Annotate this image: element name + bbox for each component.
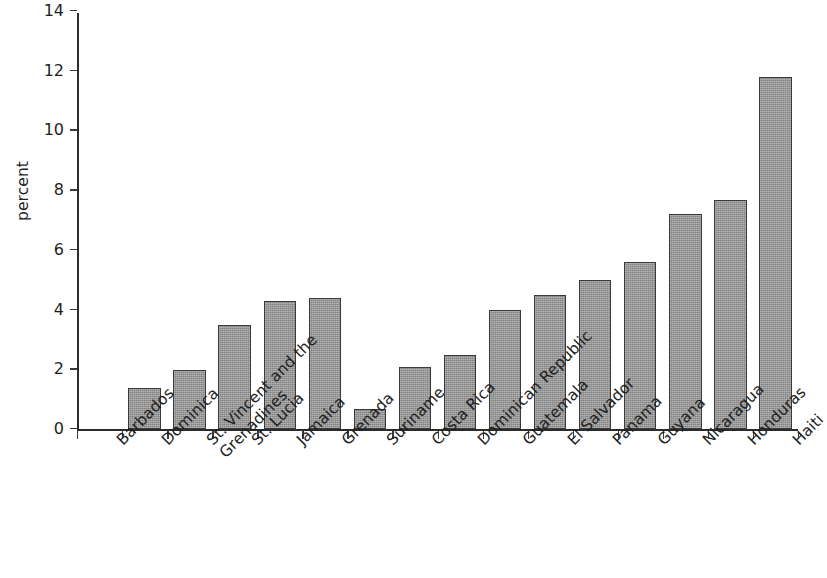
y-tick: 6 [70,249,77,250]
y-tick-label: 8 [54,180,64,199]
y-tick: 12 [70,70,77,71]
y-tick: 0 [70,428,77,429]
y-tick: 2 [70,368,77,369]
y-tick: 14 [70,10,77,11]
plot-area: 02468101214 [77,13,798,431]
y-tick-label: 6 [54,240,64,259]
y-axis-title: percent [14,146,32,236]
x-axis-labels: BarbadosDominicaSt. Vincent and theGrena… [77,436,798,578]
y-tick-label: 12 [44,61,64,80]
y-tick: 10 [70,129,77,130]
y-tick-label: 4 [54,300,64,319]
y-tick-label: 2 [54,359,64,378]
y-tick-label: 0 [54,419,64,438]
y-tick: 8 [70,189,77,190]
bar [759,77,791,429]
y-tick-label: 10 [44,120,64,139]
y-tick-label: 14 [44,1,64,20]
y-axis-line [77,13,79,431]
y-tick: 4 [70,309,77,310]
